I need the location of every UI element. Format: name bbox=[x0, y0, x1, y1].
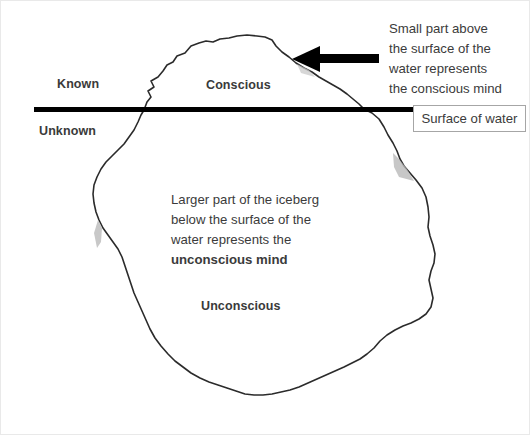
annotation-conscious-line-2: the surface of the bbox=[389, 39, 502, 59]
annotation-unconscious-mind: Larger part of the iceberg below the sur… bbox=[171, 190, 319, 270]
label-unknown: Unknown bbox=[39, 124, 96, 138]
annotation-unconscious-line-2: below the surface of the bbox=[171, 210, 319, 230]
waterline bbox=[34, 107, 422, 112]
annotation-conscious-mind: Small part above the surface of the wate… bbox=[389, 19, 502, 99]
surface-of-water-callout: Surface of water bbox=[413, 105, 526, 132]
annotation-unconscious-emphasis: unconscious mind bbox=[171, 250, 319, 270]
annotation-conscious-line-4: the conscious mind bbox=[389, 79, 502, 99]
label-unconscious: Unconscious bbox=[201, 299, 281, 313]
annotation-conscious-line-1: Small part above bbox=[389, 19, 502, 39]
label-known: Known bbox=[57, 77, 99, 91]
iceberg-diagram: Known Unknown Conscious Unconscious Smal… bbox=[0, 0, 530, 435]
annotation-unconscious-line-1: Larger part of the iceberg bbox=[171, 190, 319, 210]
surface-of-water-label: Surface of water bbox=[421, 111, 517, 126]
label-conscious: Conscious bbox=[206, 78, 271, 92]
annotation-conscious-line-3: water represents bbox=[389, 59, 502, 79]
annotation-unconscious-line-3: water represents the bbox=[171, 230, 319, 250]
